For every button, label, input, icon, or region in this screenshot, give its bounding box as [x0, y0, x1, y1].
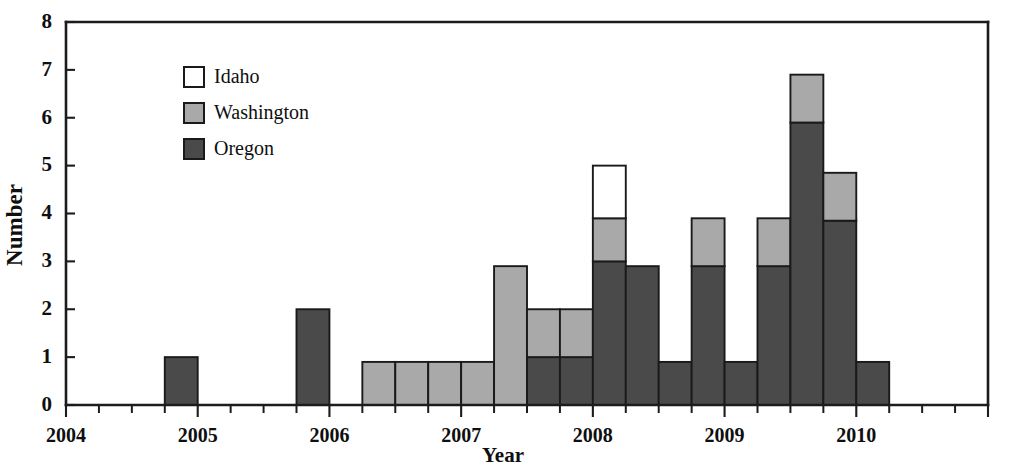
x-tick-label-2009: 2009 [705, 424, 745, 446]
y-tick-label-6: 6 [42, 105, 53, 129]
x-axis-title: Year [482, 443, 524, 467]
legend-label-washington: Washington [214, 101, 309, 124]
bar-segment [428, 362, 461, 405]
bar-segment [725, 362, 758, 405]
bar-segment [527, 357, 560, 405]
bar-segment [758, 266, 791, 405]
bar-segment [527, 309, 560, 357]
bar-segment [560, 357, 593, 405]
bar-segment [593, 166, 626, 219]
y-tick-label-4: 4 [42, 200, 53, 224]
bar-segment [692, 266, 725, 405]
bar-segment [593, 218, 626, 261]
y-tick-label-8: 8 [42, 9, 53, 33]
legend-swatch-washington [184, 103, 204, 123]
chart-figure: 012345678 2004200520062007200820092010 N… [0, 0, 1009, 470]
x-tick-label-2005: 2005 [178, 424, 218, 446]
x-tick-label-2008: 2008 [573, 424, 613, 446]
bar-segment [692, 218, 725, 266]
x-tick-label-2007: 2007 [441, 424, 481, 446]
y-tick-label-7: 7 [42, 57, 53, 81]
y-tick-label-5: 5 [42, 152, 53, 176]
y-tick-label-3: 3 [42, 248, 53, 272]
legend-label-idaho: Idaho [214, 65, 260, 87]
x-tick-label-2010: 2010 [836, 424, 876, 446]
bar-segment [823, 221, 856, 405]
bar-segment [165, 357, 198, 405]
bar-segment [593, 261, 626, 405]
legend-label-oregon: Oregon [214, 137, 274, 160]
x-tick-label-2004: 2004 [46, 424, 86, 446]
bar-segment [297, 309, 330, 405]
y-tick-label-2: 2 [42, 296, 53, 320]
y-tick-label-0: 0 [42, 392, 53, 416]
bar-segment [494, 266, 527, 405]
bar-segment [758, 218, 791, 266]
bar-segment [659, 362, 692, 405]
legend-swatch-oregon [184, 139, 204, 159]
legend-swatch-idaho [184, 67, 204, 87]
bar-segment [856, 362, 889, 405]
bar-segment [823, 173, 856, 221]
y-tick-label-1: 1 [42, 344, 53, 368]
bar-chart-svg: 012345678 2004200520062007200820092010 N… [0, 0, 1009, 470]
bar-segment [362, 362, 395, 405]
bar-segment [461, 362, 494, 405]
y-axis-title: Number [2, 184, 27, 266]
x-tick-label-2006: 2006 [309, 424, 349, 446]
bar-segment [560, 309, 593, 357]
bar-segment [790, 75, 823, 123]
bar-segment [790, 123, 823, 405]
bar-segment [626, 266, 659, 405]
bar-segment [395, 362, 428, 405]
